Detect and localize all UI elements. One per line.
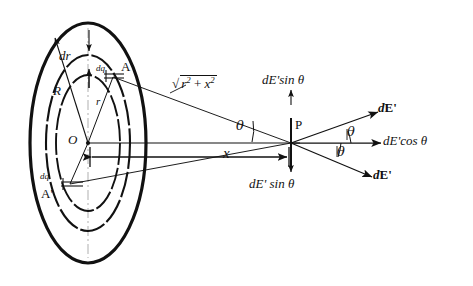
field-vector-upper-E: E bbox=[385, 100, 394, 115]
cos-component-label: dE'cos θ bbox=[383, 134, 427, 147]
field-vector-upper-label: dE' bbox=[378, 101, 397, 114]
field-vector-upper-prime: ' bbox=[393, 100, 397, 115]
ring-thickness-label: dr bbox=[59, 49, 71, 62]
charge-element-top-label: dq bbox=[96, 64, 105, 73]
axial-distance-label: x bbox=[223, 146, 230, 161]
field-vector-lower-E: E bbox=[380, 167, 389, 182]
theta-arc-at-origin bbox=[252, 121, 254, 142]
field-point-label: P bbox=[295, 118, 302, 131]
diagram-canvas: dr R r dq A dq A' O P x √r2 + x2 θ θ θ d… bbox=[0, 0, 473, 286]
field-vector-upper-arrow[interactable] bbox=[291, 112, 378, 143]
angle-lower-at-p-label: θ bbox=[337, 145, 345, 158]
radical-sign: √ bbox=[172, 76, 179, 91]
disk-radius-label: R bbox=[53, 84, 61, 97]
radical-x-exponent: 2 bbox=[210, 75, 214, 85]
field-vector-lower-label: dE' bbox=[373, 168, 392, 181]
point-a-top-label: A bbox=[121, 60, 130, 73]
charge-element-bottom-label: dq bbox=[40, 172, 49, 181]
field-vector-lower-arrow[interactable] bbox=[291, 143, 372, 177]
field-vector-lower-prime: ' bbox=[388, 167, 392, 182]
radius-r-lower-line bbox=[70, 143, 88, 184]
angle-at-origin-label: θ bbox=[236, 119, 244, 132]
sin-component-top-label: dE'sin θ bbox=[262, 73, 304, 86]
radius-r-line bbox=[88, 77, 113, 143]
origin-dot bbox=[86, 141, 90, 145]
origin-label: O bbox=[68, 133, 77, 146]
radical-body: r2 + x2 bbox=[180, 75, 217, 91]
sin-component-bottom-label: dE' sin θ bbox=[249, 177, 294, 190]
point-a-bottom-label: A' bbox=[41, 187, 53, 200]
ring-radius-label: r bbox=[96, 96, 100, 107]
angle-upper-at-p-label: θ bbox=[347, 125, 355, 138]
distance-radical: √r2 + x2 bbox=[172, 75, 217, 92]
